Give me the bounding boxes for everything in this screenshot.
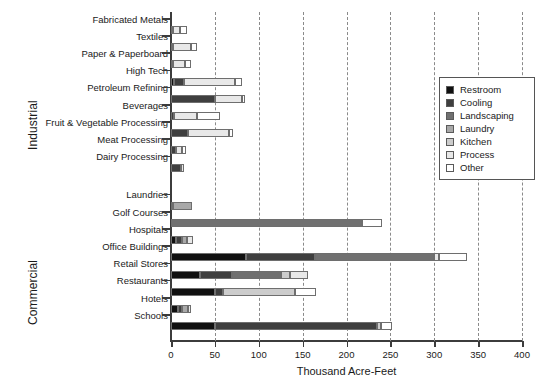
gridline-300	[434, 12, 435, 341]
x-tick-350	[478, 341, 480, 347]
bar-segment-cooling	[215, 288, 223, 296]
x-tick-label-0: 0	[151, 349, 191, 360]
bar-segment-other	[191, 43, 196, 51]
bar-segment-process	[173, 60, 185, 68]
y-tick	[162, 194, 171, 196]
y-tick	[162, 263, 171, 265]
bar-segment-process	[174, 112, 198, 120]
bar-segment-other	[381, 322, 392, 330]
bar-segment-other	[197, 112, 220, 120]
x-tick-50	[215, 341, 217, 347]
legend-label: Cooling	[460, 97, 492, 108]
bar-petroleum-refining[interactable]	[171, 95, 245, 103]
y-tick	[162, 245, 171, 247]
x-tick-100	[259, 341, 261, 347]
legend-item-kitchen[interactable]: Kitchen	[446, 135, 528, 148]
legend-item-process[interactable]: Process	[446, 148, 528, 161]
gridline-200	[347, 12, 348, 341]
category-label: Fabricated Metals	[92, 15, 168, 25]
bar-schools[interactable]	[171, 322, 392, 330]
bar-segment-landscaping	[232, 271, 280, 279]
category-label: High Tech	[126, 66, 168, 76]
legend-label: Landscaping	[460, 110, 514, 121]
bar-segment-process	[173, 43, 191, 51]
x-tick-label-50: 50	[195, 349, 235, 360]
bar-segment-process	[187, 236, 193, 244]
bar-textiles[interactable]	[171, 43, 197, 51]
x-tick-label-100: 100	[239, 349, 279, 360]
bar-segment-restroom	[171, 271, 200, 279]
bar-segment-landscaping	[171, 219, 362, 227]
bar-paper-paperboard[interactable]	[171, 60, 191, 68]
bar-segment-cooling	[215, 322, 377, 330]
category-label: Fruit & Vegetable Processing	[45, 118, 168, 128]
bar-restaurants[interactable]	[171, 288, 316, 296]
legend-item-landscaping[interactable]: Landscaping	[446, 109, 528, 122]
category-label: Laundries	[126, 190, 168, 200]
category-label: Restaurants	[117, 276, 168, 286]
bar-segment-cooling	[246, 253, 314, 261]
legend-item-other[interactable]: Other	[446, 161, 528, 174]
legend-swatch-laundry-icon	[446, 125, 454, 133]
bar-golf-courses[interactable]	[171, 219, 382, 227]
bar-segment-other	[235, 78, 242, 86]
legend: RestroomCoolingLandscapingLaundryKitchen…	[439, 77, 535, 180]
category-label: Meat Processing	[97, 135, 168, 145]
category-label: Petroleum Refining	[87, 83, 168, 93]
y-tick	[162, 228, 171, 230]
x-tick-label-200: 200	[327, 349, 367, 360]
legend-swatch-other-icon	[446, 164, 454, 172]
bar-segment-cooling	[171, 164, 181, 172]
category-label: Textiles	[136, 32, 168, 42]
bar-beverages[interactable]	[171, 112, 220, 120]
legend-item-laundry[interactable]: Laundry	[446, 122, 528, 135]
category-label: Hotels	[141, 294, 168, 304]
bar-segment-process	[181, 164, 185, 172]
legend-item-cooling[interactable]: Cooling	[446, 96, 528, 109]
x-tick-400	[522, 341, 524, 347]
bar-segment-other	[295, 288, 316, 296]
bar-high-tech[interactable]	[171, 78, 242, 86]
bar-segment-restroom	[171, 322, 215, 330]
y-tick	[162, 87, 171, 89]
y-tick	[162, 314, 171, 316]
bar-segment-other	[182, 146, 186, 154]
legend-item-restroom[interactable]: Restroom	[446, 83, 528, 96]
category-label: Paper & Paperboard	[81, 49, 168, 59]
category-label: Hospitals	[129, 225, 168, 235]
bar-segment-kitchen	[223, 288, 295, 296]
category-axis-labels: Fabricated MetalsTextilesPaper & Paperbo…	[0, 0, 168, 388]
bar-meat-processing[interactable]	[171, 146, 186, 154]
y-tick	[162, 121, 171, 123]
category-label: Golf Courses	[113, 208, 168, 218]
x-tick-250	[390, 341, 392, 347]
bar-hospitals[interactable]	[171, 236, 193, 244]
legend-swatch-restroom-icon	[446, 86, 454, 94]
bar-segment-other	[185, 60, 190, 68]
bar-fabricated-metals[interactable]	[171, 26, 187, 34]
bar-retail-stores[interactable]	[171, 271, 308, 279]
y-tick	[162, 52, 171, 54]
x-tick-label-300: 300	[414, 349, 454, 360]
x-axis-title: Thousand Acre-Feet	[171, 365, 522, 377]
y-tick	[162, 70, 171, 72]
bar-segment-other	[229, 129, 233, 137]
legend-swatch-kitchen-icon	[446, 138, 454, 146]
bar-segment-other	[362, 219, 381, 227]
bar-hotels[interactable]	[171, 305, 191, 313]
bar-segment-restroom	[171, 253, 246, 261]
bar-office-buildings[interactable]	[171, 253, 467, 261]
category-label: Dairy Processing	[96, 152, 168, 162]
x-tick-label-250: 250	[370, 349, 410, 360]
legend-label: Kitchen	[460, 136, 492, 147]
bar-segment-cooling	[200, 271, 232, 279]
bar-segment-landscaping	[315, 253, 434, 261]
y-tick	[162, 211, 171, 213]
bar-segment-process	[188, 129, 229, 137]
bar-fruit-vegetable-processing[interactable]	[171, 129, 233, 137]
category-label: Office Buildings	[102, 242, 168, 252]
bar-dairy-processing[interactable]	[171, 164, 184, 172]
bar-segment-process	[173, 26, 180, 34]
bar-segment-process	[290, 271, 308, 279]
bar-laundries[interactable]	[171, 202, 192, 210]
